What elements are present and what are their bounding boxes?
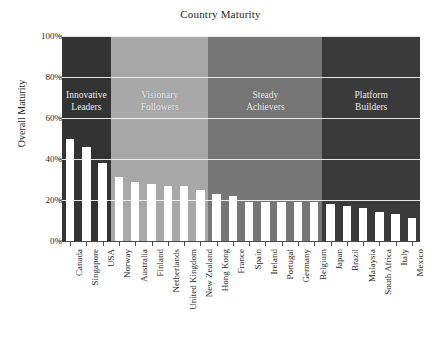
bar	[277, 202, 285, 241]
x-tick-label: United Kingdom	[188, 249, 198, 310]
y-axis-label: Overall Maturity	[16, 44, 27, 184]
bar	[212, 194, 220, 241]
x-tick-mark	[135, 241, 136, 246]
gridline	[62, 77, 420, 78]
x-tick-label: Mexico	[415, 249, 425, 277]
bar	[375, 212, 383, 241]
bar	[131, 182, 139, 241]
x-tick-label: Italy	[399, 249, 409, 266]
x-tick-mark	[70, 241, 71, 246]
x-axis-line	[62, 241, 420, 242]
bar	[343, 206, 351, 241]
bar	[261, 202, 269, 241]
x-tick-mark	[119, 241, 120, 246]
band-label: Visionary Followers	[111, 90, 209, 113]
x-tick-label: USA	[106, 249, 116, 267]
bar	[294, 202, 302, 241]
x-tick-mark	[282, 241, 283, 246]
bar	[408, 218, 416, 241]
x-tick-mark	[265, 241, 266, 246]
x-tick-mark	[412, 241, 413, 246]
x-tick-label: France	[236, 249, 246, 274]
x-tick-mark	[331, 241, 332, 246]
x-tick-mark	[347, 241, 348, 246]
x-tick-label: Netherlands	[171, 249, 181, 292]
gridline	[62, 159, 420, 160]
plot-area: Innovative LeadersVisionary FollowersSte…	[62, 36, 420, 241]
x-tick-mark	[168, 241, 169, 246]
x-tick-mark	[298, 241, 299, 246]
x-tick-label: Ireland	[269, 249, 279, 274]
x-tick-label: Canada	[74, 249, 84, 276]
maturity-band-3: Platform Builders	[322, 36, 420, 241]
bar	[245, 202, 253, 241]
y-axis-ticks: 0%20%40%60%80%100%	[26, 36, 62, 241]
x-tick-mark	[379, 241, 380, 246]
x-tick-label: Brazil	[350, 249, 360, 271]
x-tick-mark	[233, 241, 234, 246]
x-tick-label: Australia	[139, 249, 149, 282]
bar	[359, 208, 367, 241]
x-tick-label: Spain	[253, 249, 263, 270]
gridline	[62, 36, 420, 37]
band-label: Innovative Leaders	[62, 90, 111, 113]
bar	[180, 186, 188, 241]
x-tick-mark	[200, 241, 201, 246]
gridline	[62, 118, 420, 119]
x-tick-label: Norway	[122, 249, 132, 278]
x-tick-label: Belgium	[318, 249, 328, 280]
x-tick-label: New Zealand	[204, 249, 214, 297]
x-tick-mark	[217, 241, 218, 246]
x-tick-mark	[152, 241, 153, 246]
x-tick-mark	[103, 241, 104, 246]
bar	[310, 202, 318, 241]
bar	[391, 214, 399, 241]
band-label: Platform Builders	[322, 90, 420, 113]
x-tick-label: Singapore	[90, 249, 100, 286]
x-tick-mark	[363, 241, 364, 246]
x-tick-label: Portugal	[285, 249, 295, 280]
bar	[326, 204, 334, 241]
x-tick-mark	[184, 241, 185, 246]
maturity-band-1: Visionary Followers	[111, 36, 209, 241]
bar	[196, 190, 204, 241]
x-tick-label: Malaysia	[367, 249, 377, 282]
bar	[115, 177, 123, 241]
chart-title: Country Maturity	[0, 8, 441, 20]
x-tick-label: Hong Kong	[220, 249, 230, 291]
bar	[82, 147, 90, 241]
x-tick-label: Japan	[334, 249, 344, 270]
x-tick-label: Finland	[155, 249, 165, 277]
bar	[66, 139, 74, 242]
bar	[164, 186, 172, 241]
x-tick-label: Germany	[301, 249, 311, 283]
band-label: Steady Achievers	[208, 90, 322, 113]
bar	[147, 184, 155, 241]
bar	[98, 163, 106, 241]
x-tick-mark	[396, 241, 397, 246]
x-tick-mark	[249, 241, 250, 246]
country-maturity-chart: Country Maturity Overall Maturity 0%20%4…	[0, 0, 441, 356]
x-tick-mark	[86, 241, 87, 246]
bar	[229, 196, 237, 241]
x-tick-label: South Africa	[383, 249, 393, 295]
x-tick-mark	[314, 241, 315, 246]
